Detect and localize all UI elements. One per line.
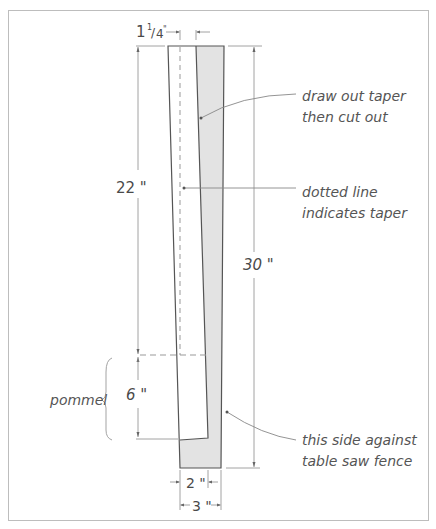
diagram-canvas: 1 1 / 4 " 22 " 6 " pommel 30 " 2 " 3 " d… [0,0,436,529]
blade-length-label: 22 " [116,179,147,197]
top-offset-whole: 1 [136,23,146,41]
fence-note-line1: this side against [302,432,417,448]
dotted-note-line1: dotted line [302,184,378,200]
dotted-note-line2: indicates taper [302,205,408,221]
taper-note-line1: draw out taper [302,88,407,104]
pommel-length-label: 6 " [126,386,147,404]
bottom-outer-width-label: 3 " [192,498,212,514]
total-length-label: 30 " [243,256,274,274]
fence-note-line2: table saw fence [302,453,412,469]
top-offset-inch: " [163,25,167,34]
pommel-label: pommel [49,392,107,408]
taper-note-line2: then cut out [302,109,388,125]
bottom-inner-width-label: 2 " [186,475,206,491]
fence-callout-line [227,412,296,440]
